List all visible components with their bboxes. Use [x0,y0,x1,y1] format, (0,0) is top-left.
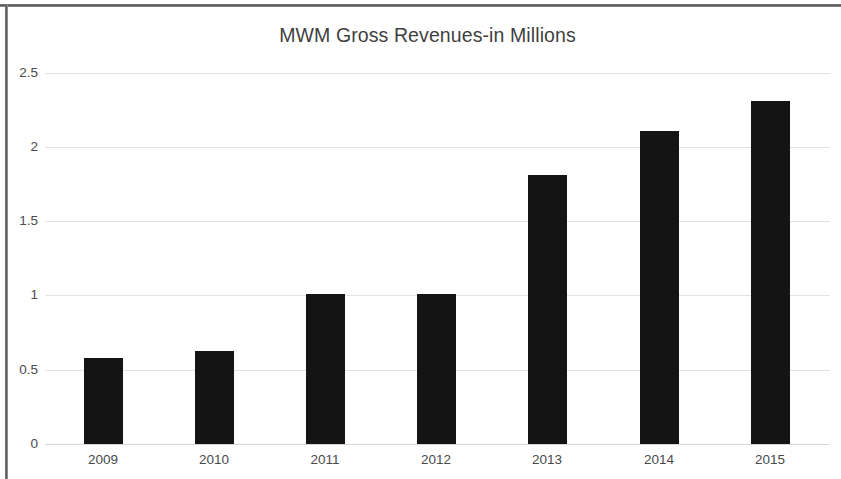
scanned-chart-page: MWM Gross Revenues-in Millions 2.5 2 1.5… [0,0,841,479]
gridline-2 [45,147,830,148]
gridline-1-5 [45,221,830,222]
bar-2013 [528,175,567,444]
x-axis-tick-label: 2015 [725,452,815,467]
gridline-2-5 [45,73,830,74]
chart-title: MWM Gross Revenues-in Millions [45,24,810,47]
y-axis-tick-label: 2.5 [6,65,38,80]
y-axis-tick-label: 0.5 [6,362,38,377]
bar-2015 [751,101,790,444]
bar-2012 [417,294,456,444]
y-axis-tick-label: 0 [6,436,38,451]
bar-2014 [640,131,679,444]
x-axis-tick-label: 2009 [58,452,148,467]
axis-baseline [45,444,830,445]
y-axis-tick-label: 1 [6,287,38,302]
x-axis-tick-label: 2012 [391,452,481,467]
bar-2009 [84,358,123,444]
x-axis-tick-label: 2014 [614,452,704,467]
bar-2010 [195,351,234,444]
bar-2011 [306,294,345,444]
y-axis-tick-label: 1.5 [6,213,38,228]
bar-chart: MWM Gross Revenues-in Millions 2.5 2 1.5… [0,0,841,479]
y-axis-tick-label: 2 [6,139,38,154]
x-axis-tick-label: 2010 [169,452,259,467]
x-axis-tick-label: 2011 [280,452,370,467]
x-axis-tick-label: 2013 [502,452,592,467]
